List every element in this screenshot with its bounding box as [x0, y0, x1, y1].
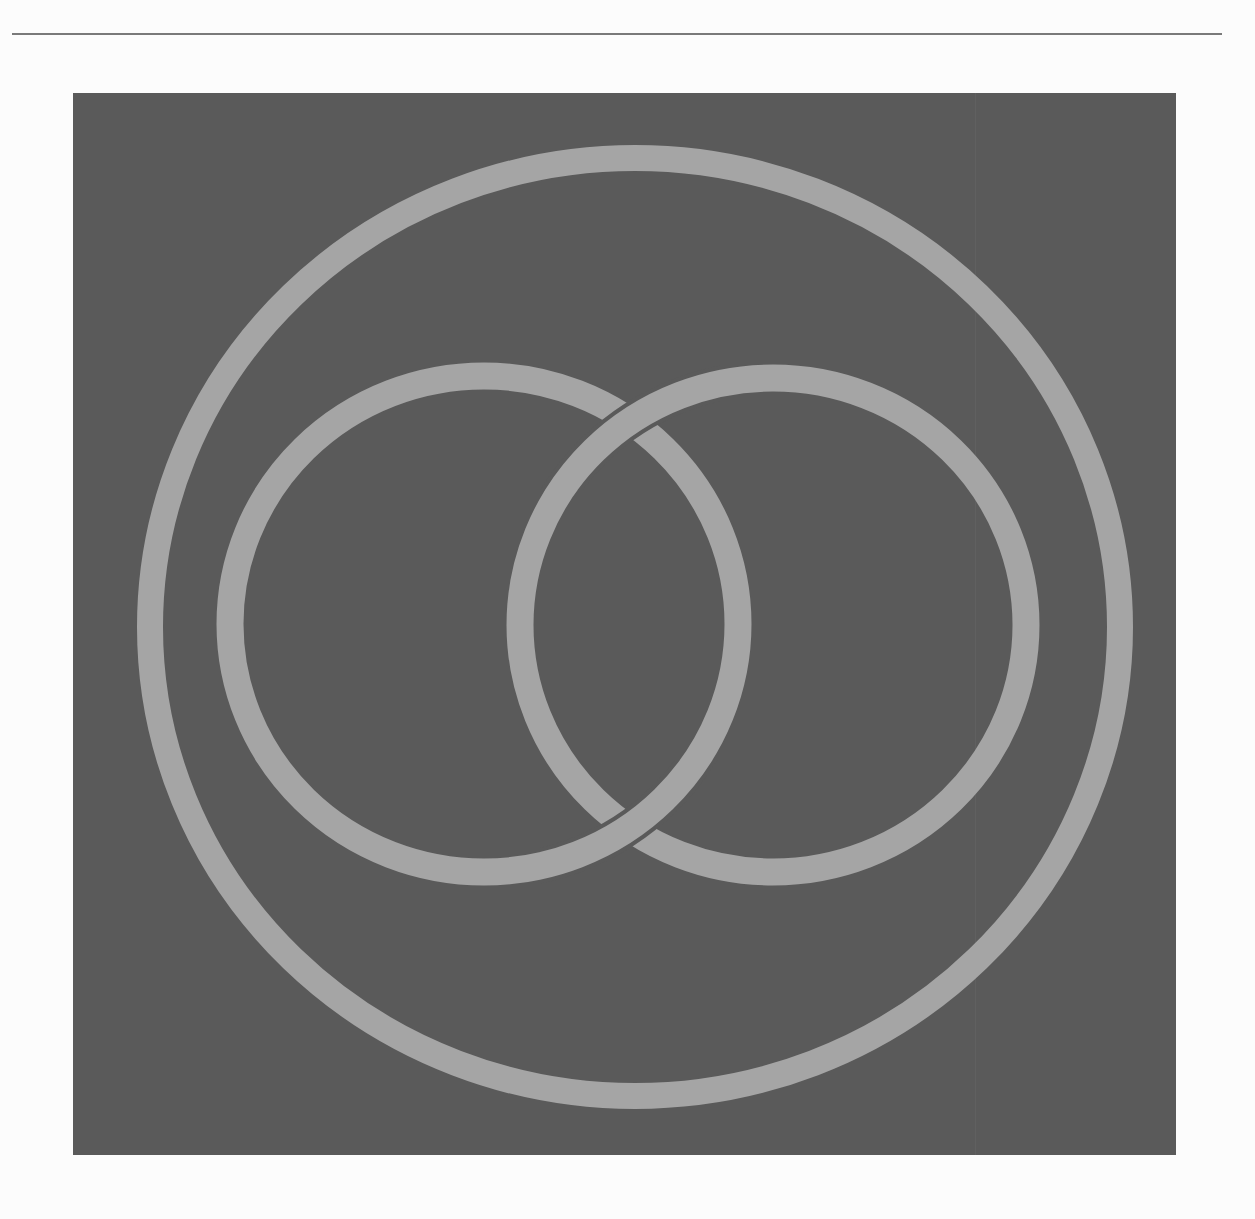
outer-ring	[150, 158, 1120, 1096]
rings-figure	[0, 0, 1255, 1219]
